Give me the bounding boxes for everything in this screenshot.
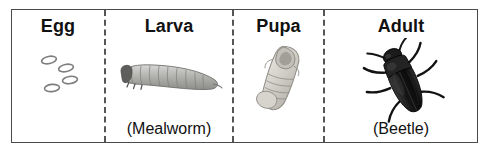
mealworm-larva-icon bbox=[114, 54, 226, 102]
stage-title-pupa: Pupa bbox=[256, 17, 300, 35]
stage-caption-adult: (Beetle) bbox=[325, 121, 477, 137]
stage-cell-adult: Adult bbox=[323, 10, 477, 142]
stage-cell-pupa: Pupa bbox=[232, 10, 323, 142]
stage-cell-larva: Larva bbox=[104, 10, 232, 142]
stage-art-adult bbox=[325, 38, 477, 120]
stage-caption-larva: (Mealworm) bbox=[106, 121, 232, 137]
stage-art-pupa bbox=[234, 38, 323, 120]
mealworm-pupa-icon bbox=[248, 40, 312, 122]
stage-title-adult: Adult bbox=[378, 17, 424, 35]
stage-title-larva: Larva bbox=[145, 17, 194, 35]
egg-cluster-icon bbox=[12, 38, 104, 122]
darkling-beetle-icon bbox=[355, 38, 453, 126]
stage-art-egg bbox=[12, 38, 104, 120]
stage-art-larva bbox=[106, 38, 232, 120]
stage-cell-egg: Egg bbox=[12, 10, 104, 142]
mealworm-life-cycle-diagram: Egg Larva bbox=[11, 9, 478, 143]
stage-title-egg: Egg bbox=[41, 17, 75, 35]
